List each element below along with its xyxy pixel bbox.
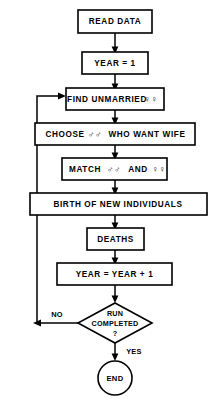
node-read-data-label: READ DATA — [89, 17, 141, 26]
node-year-init[interactable]: YEAR = 1 — [82, 52, 148, 74]
node-run-completed-line1: RUN — [107, 309, 123, 318]
edge-label-no: NO — [51, 310, 63, 319]
node-choose-males-label-after: WHO WANT WIFE — [109, 130, 186, 139]
node-match[interactable]: MATCH ♂♂ AND ♀♀ — [62, 158, 167, 180]
node-end-label: END — [106, 374, 123, 383]
node-deaths[interactable]: DEATHS — [87, 228, 144, 250]
node-birth-label: BIRTH OF NEW INDIVIDUALS — [53, 200, 182, 209]
node-run-completed-line3: ? — [113, 329, 118, 338]
female-female-symbol-icon: ♀♀ — [144, 94, 158, 104]
node-choose-males-label-before: CHOOSE — [45, 130, 84, 139]
node-choose-males[interactable]: CHOOSE ♂♂ WHO WANT WIFE — [35, 123, 195, 145]
node-end[interactable]: END — [98, 361, 132, 395]
male-male-symbol-icon: ♂♂ — [107, 164, 121, 174]
flowchart-svg: READ DATA YEAR = 1 FIND UNMARRIED ♀♀ CHO… — [0, 0, 217, 402]
edge-label-yes: YES — [126, 347, 142, 356]
arrow-head-icon — [112, 354, 119, 362]
node-year-increment[interactable]: YEAR = YEAR + 1 — [57, 263, 172, 285]
node-run-completed[interactable]: RUN COMPLETED ? — [78, 303, 152, 343]
node-match-label-before: MATCH — [69, 165, 101, 174]
node-find-unmarried[interactable]: FIND UNMARRIED ♀♀ — [66, 88, 164, 110]
arrow-head-icon — [58, 93, 66, 100]
node-birth[interactable]: BIRTH OF NEW INDIVIDUALS — [30, 193, 207, 215]
arrow-head-icon — [112, 296, 119, 304]
node-year-init-label: YEAR = 1 — [94, 59, 135, 68]
node-find-unmarried-label: FIND UNMARRIED — [67, 95, 147, 104]
female-female-symbol-icon: ♀♀ — [152, 164, 166, 174]
node-run-completed-line2: COMPLETED — [92, 319, 139, 328]
node-match-label-mid: AND — [128, 165, 148, 174]
male-male-symbol-icon: ♂♂ — [88, 129, 102, 139]
flowchart-canvas: READ DATA YEAR = 1 FIND UNMARRIED ♀♀ CHO… — [0, 0, 217, 402]
node-year-increment-label: YEAR = YEAR + 1 — [76, 270, 154, 279]
node-deaths-label: DEATHS — [97, 235, 134, 244]
node-read-data[interactable]: READ DATA — [78, 10, 152, 33]
